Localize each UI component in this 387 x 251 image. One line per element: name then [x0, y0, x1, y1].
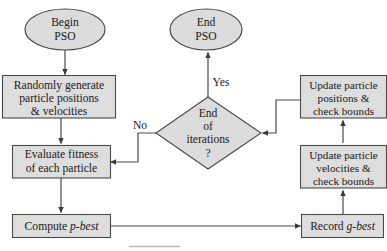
edge-label-no: No	[133, 119, 147, 132]
evaluate-fitness-label-line2: of each particle	[26, 162, 97, 175]
node-randomly-generate[interactable]: Randomly generate particle positions & v…	[3, 76, 116, 119]
randomly-generate-label-line2: particle positions	[19, 92, 99, 105]
record-g-best-label-italic: g-best	[347, 219, 376, 232]
update-velocities-label-line1: Update particle	[309, 149, 378, 161]
node-end-pso[interactable]: End PSO	[170, 9, 242, 50]
pso-flowchart: Begin PSO End PSO Randomly generate part…	[0, 0, 387, 251]
begin-pso-label-line1: Begin	[51, 16, 79, 29]
record-g-best-label: Record g-best	[310, 219, 376, 232]
node-record-g-best[interactable]: Record g-best	[302, 215, 384, 238]
compute-p-best-label-plain: Compute	[25, 219, 70, 232]
update-positions-label-line2: positions &	[318, 92, 370, 104]
node-begin-pso[interactable]: Begin PSO	[25, 9, 105, 50]
compute-p-best-label: Compute p-best	[25, 219, 100, 232]
update-positions-label-line3: check bounds	[313, 105, 374, 117]
update-velocities-label-line3: check bounds	[313, 175, 374, 187]
end-pso-label-line2: PSO	[195, 30, 216, 43]
node-update-positions[interactable]: Update particle positions & check bounds	[301, 76, 387, 119]
node-evaluate-fitness[interactable]: Evaluate fitness of each particle	[13, 146, 111, 179]
end-of-iterations-label-line1: End	[199, 107, 218, 120]
end-of-iterations-label-line3: iterations	[186, 133, 230, 146]
begin-pso-label-line2: PSO	[54, 30, 75, 43]
end-pso-label-line1: End	[197, 16, 216, 29]
randomly-generate-label-line3: & velocities	[31, 105, 88, 118]
edge-decision-no-to-evaluate	[111, 133, 158, 162]
update-positions-label-line1: Update particle	[309, 79, 378, 91]
edge-label-yes: Yes	[213, 76, 230, 89]
end-of-iterations-label-line4: ?	[205, 147, 210, 160]
compute-p-best-label-italic: p-best	[69, 219, 99, 232]
end-of-iterations-label-line2: of	[203, 120, 213, 133]
node-update-velocities[interactable]: Update particle velocities & check bound…	[301, 146, 387, 189]
node-compute-p-best[interactable]: Compute p-best	[13, 215, 111, 238]
record-g-best-label-plain: Record	[310, 219, 346, 232]
randomly-generate-label-line1: Randomly generate	[14, 79, 104, 92]
update-velocities-label-line2: velocities &	[316, 162, 371, 174]
edge-positions-to-decision	[263, 100, 301, 133]
node-end-of-iterations[interactable]: End of iterations ?	[156, 97, 261, 169]
evaluate-fitness-label-line1: Evaluate fitness	[25, 148, 99, 161]
